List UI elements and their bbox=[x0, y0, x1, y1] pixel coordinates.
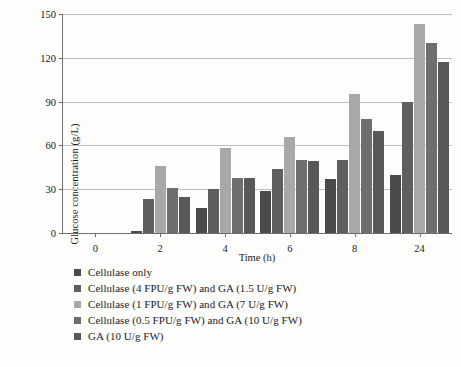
bar-group: 4 bbox=[193, 14, 258, 233]
bar bbox=[244, 178, 255, 233]
bar bbox=[155, 166, 166, 233]
legend-label: Cellulase (1 FPU/g FW) and GA (7 U/g FW) bbox=[88, 298, 288, 310]
y-tick-label: 120 bbox=[40, 52, 56, 63]
legend-swatch bbox=[74, 301, 81, 308]
bar bbox=[296, 160, 307, 233]
bar-group: 0 bbox=[63, 14, 128, 233]
bar-group: 8 bbox=[322, 14, 387, 233]
legend-swatch bbox=[74, 333, 81, 340]
legend-swatch bbox=[74, 269, 81, 276]
x-tick-mark bbox=[160, 233, 161, 237]
bar-chart: Glucose concentration (g/L) 030609012015… bbox=[0, 0, 461, 367]
bar bbox=[325, 179, 336, 233]
bar bbox=[390, 175, 401, 233]
y-tick-mark bbox=[59, 233, 63, 234]
y-tick-label: 60 bbox=[46, 140, 57, 151]
x-axis-title: Time (h) bbox=[62, 252, 452, 263]
legend-item: GA (10 U/g FW) bbox=[74, 328, 444, 344]
bar bbox=[232, 178, 243, 233]
bar-group: 24 bbox=[387, 14, 452, 233]
legend-label: Cellulase only bbox=[88, 266, 152, 278]
legend-item: Cellulase (1 FPU/g FW) and GA (7 U/g FW) bbox=[74, 296, 444, 312]
bar bbox=[337, 160, 348, 233]
legend-swatch bbox=[74, 285, 81, 292]
legend-label: GA (10 U/g FW) bbox=[88, 330, 164, 342]
legend-swatch bbox=[74, 317, 81, 324]
x-tick-mark bbox=[290, 233, 291, 237]
bar bbox=[143, 199, 154, 233]
legend-item: Cellulase (0.5 FPU/g FW) and GA (10 U/g … bbox=[74, 312, 444, 328]
legend-item: Cellulase (4 FPU/g FW) and GA (1.5 U/g F… bbox=[74, 280, 444, 296]
bar bbox=[196, 208, 207, 233]
bar bbox=[179, 197, 190, 233]
bar bbox=[284, 137, 295, 233]
legend-label: Cellulase (4 FPU/g FW) and GA (1.5 U/g F… bbox=[88, 282, 296, 294]
bar bbox=[438, 62, 449, 233]
y-tick-label: 150 bbox=[40, 9, 56, 20]
plot-area: 0306090120150 0246824 bbox=[62, 14, 452, 234]
bar-groups: 0246824 bbox=[63, 14, 452, 233]
bar bbox=[272, 169, 283, 233]
bar bbox=[208, 189, 219, 233]
bar bbox=[414, 24, 425, 233]
bar bbox=[349, 94, 360, 233]
bar bbox=[131, 231, 142, 233]
y-tick-label: 90 bbox=[46, 96, 57, 107]
chart-legend: Cellulase onlyCellulase (4 FPU/g FW) and… bbox=[74, 264, 444, 344]
x-tick-mark bbox=[225, 233, 226, 237]
bar bbox=[260, 191, 271, 233]
bar bbox=[426, 43, 437, 233]
x-tick-mark bbox=[355, 233, 356, 237]
x-tick-mark bbox=[95, 233, 96, 237]
legend-item: Cellulase only bbox=[74, 264, 444, 280]
bar-group: 2 bbox=[128, 14, 193, 233]
y-tick-label: 0 bbox=[51, 228, 56, 239]
legend-label: Cellulase (0.5 FPU/g FW) and GA (10 U/g … bbox=[88, 314, 302, 326]
bar bbox=[308, 161, 319, 233]
bar bbox=[220, 148, 231, 233]
bar bbox=[361, 119, 372, 233]
x-tick-mark bbox=[420, 233, 421, 237]
y-tick-label: 30 bbox=[46, 184, 57, 195]
bar bbox=[167, 188, 178, 233]
bar-group: 6 bbox=[257, 14, 322, 233]
bar bbox=[373, 131, 384, 233]
bar bbox=[402, 102, 413, 233]
